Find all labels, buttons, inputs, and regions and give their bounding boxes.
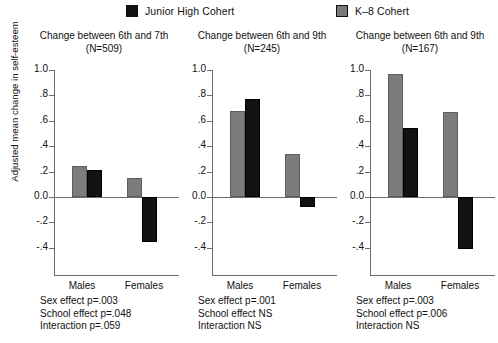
panel-2-ticklabel-0: 1.0 — [192, 63, 206, 74]
panel-1-notes: Sex effect p=.003 School effect p=.048 I… — [40, 295, 131, 333]
panel-3-title-line2: (N=167) — [340, 43, 498, 56]
panel-3-ticklabel-5: 0.0 — [350, 190, 364, 201]
panel-3-ticklabel-4: .2 — [356, 165, 364, 176]
panel-1-title: Change between 6th and 7th (N=509) — [24, 30, 184, 55]
panel-3-tick-3 — [365, 146, 371, 147]
panel-1-tick-5 — [49, 197, 55, 198]
panel-2-bar-jh-females — [300, 197, 315, 207]
panel-1-tick-0 — [49, 70, 55, 71]
panel-1-bottom-axis-line — [54, 275, 179, 276]
panel-3-title-line1: Change between 6th and 9th — [356, 30, 484, 41]
panel-3-ticklabel-2: .6 — [356, 114, 364, 125]
panel-2-title-line2: (N=245) — [182, 43, 342, 56]
panel-1-tick-7 — [49, 248, 55, 249]
panel-1-bar-k8-females — [127, 178, 142, 197]
panel-2-tick-6 — [207, 222, 213, 223]
panel-2-bar-jh-males — [245, 99, 260, 197]
panel-2-bar-k8-females — [285, 154, 300, 197]
panel-2-ticklabel-7: -.4 — [194, 241, 206, 252]
legend-label-junior-high: Junior High Cohert — [145, 5, 234, 17]
panel-1-tick-2 — [49, 121, 55, 122]
panel-3-zero-line — [370, 197, 495, 198]
panel-2-tick-7 — [207, 248, 213, 249]
legend-entry-k8: K–8 Cohert — [336, 5, 409, 17]
panel-1-ticklabel-0: 1.0 — [34, 63, 48, 74]
panel-3-bar-k8-females — [443, 112, 458, 197]
panel-3-ticklabel-3: .4 — [356, 139, 364, 150]
panel-3-ticklabel-0: 1.0 — [350, 63, 364, 74]
panel-2-ticklabel-5: 0.0 — [192, 190, 206, 201]
panel-3-bar-jh-males — [403, 128, 418, 197]
panel-1-tick-1 — [49, 95, 55, 96]
legend-label-k8: K–8 Cohert — [355, 5, 409, 17]
panel-3-ticklabel-7: -.4 — [352, 241, 364, 252]
panel-2-tick-2 — [207, 121, 213, 122]
panel-3-tick-1 — [365, 95, 371, 96]
panel-1-tick-4 — [49, 172, 55, 173]
panel-3-note-sex-effect: Sex effect p=.003 — [356, 295, 447, 308]
panel-2-xlabel-females: Females — [272, 280, 332, 291]
panel-3-plot: 1.0.8.6.4.20.0-.2-.4 Males Females — [370, 70, 495, 275]
panel-1-note-sex-effect: Sex effect p=.003 — [40, 295, 131, 308]
panel-1-ticklabel-2: .6 — [40, 114, 48, 125]
panel-2-tick-5 — [207, 197, 213, 198]
panel-3-bar-jh-females — [458, 197, 473, 249]
panel-1: Change between 6th and 7th (N=509) 1.0.8… — [24, 30, 184, 343]
panel-3-tick-4 — [365, 172, 371, 173]
y-axis-title: Adjusted mean change in self-esteem — [9, 2, 20, 202]
panel-2-note-school-effect: School effect NS — [198, 308, 276, 321]
panel-1-zero-line — [54, 197, 179, 198]
panel-3: Change between 6th and 9th (N=167) 1.0.8… — [340, 30, 498, 343]
figure-root: Junior High Cohert K–8 Cohert Adjusted m… — [0, 0, 498, 343]
panel-3-ticklabel-1: .8 — [356, 88, 364, 99]
panel-3-bar-k8-males — [388, 74, 403, 197]
panel-2-note-sex-effect: Sex effect p=.001 — [198, 295, 276, 308]
panel-2-title: Change between 6th and 9th (N=245) — [182, 30, 342, 55]
panel-2-notes: Sex effect p=.001 School effect NS Inter… — [198, 295, 276, 333]
panel-2-title-line1: Change between 6th and 9th — [198, 30, 326, 41]
legend: Junior High Cohert K–8 Cohert — [0, 0, 498, 26]
panel-1-ticklabel-4: .2 — [40, 165, 48, 176]
panel-3-tick-7 — [365, 248, 371, 249]
panel-2-ticklabel-2: .6 — [198, 114, 206, 125]
panel-1-note-interaction: Interaction p=.059 — [40, 320, 131, 333]
panel-3-note-school-effect: School effect p=.006 — [356, 308, 447, 321]
panel-3-bottom-axis-line — [370, 275, 495, 276]
panel-3-tick-2 — [365, 121, 371, 122]
panel-1-tick-3 — [49, 146, 55, 147]
legend-swatch-k8-icon — [336, 5, 348, 17]
panel-1-xlabel-males: Males — [52, 280, 112, 291]
panel-1-ticklabel-6: -.2 — [36, 215, 48, 226]
panel-2-tick-0 — [207, 70, 213, 71]
panel-1-xlabel-females: Females — [114, 280, 174, 291]
panel-1-note-school-effect: School effect p=.048 — [40, 308, 131, 321]
panel-2-tick-3 — [207, 146, 213, 147]
panel-2-plot: 1.0.8.6.4.20.0-.2-.4 Males Females — [212, 70, 337, 275]
panel-1-bar-jh-females — [142, 197, 157, 242]
panel-2-tick-4 — [207, 172, 213, 173]
panel-2-tick-1 — [207, 95, 213, 96]
panel-3-notes: Sex effect p=.003 School effect p=.006 I… — [356, 295, 447, 333]
panel-2-ticklabel-4: .2 — [198, 165, 206, 176]
panel-3-tick-6 — [365, 222, 371, 223]
panel-3-note-interaction: Interaction NS — [356, 320, 447, 333]
panel-2-bar-k8-males — [230, 111, 245, 197]
panel-2-xlabel-males: Males — [210, 280, 270, 291]
panel-1-title-line2: (N=509) — [24, 43, 184, 56]
panel-3-tick-0 — [365, 70, 371, 71]
panel-3-ticklabel-6: -.2 — [352, 215, 364, 226]
panel-1-ticklabel-5: 0.0 — [34, 190, 48, 201]
panel-2: Change between 6th and 9th (N=245) 1.0.8… — [182, 30, 342, 343]
panel-3-title: Change between 6th and 9th (N=167) — [340, 30, 498, 55]
panel-2-ticklabel-1: .8 — [198, 88, 206, 99]
panel-1-ticklabel-3: .4 — [40, 139, 48, 150]
panel-1-bar-jh-males — [87, 170, 102, 197]
panel-2-note-interaction: Interaction NS — [198, 320, 276, 333]
panel-3-tick-5 — [365, 197, 371, 198]
legend-swatch-junior-high-icon — [126, 5, 138, 17]
panel-1-plot: 1.0.8.6.4.20.0-.2-.4 Males Females — [54, 70, 179, 275]
panel-1-ticklabel-1: .8 — [40, 88, 48, 99]
panel-2-zero-line — [212, 197, 337, 198]
panel-2-ticklabel-6: -.2 — [194, 215, 206, 226]
legend-entry-junior-high: Junior High Cohert — [126, 5, 234, 17]
